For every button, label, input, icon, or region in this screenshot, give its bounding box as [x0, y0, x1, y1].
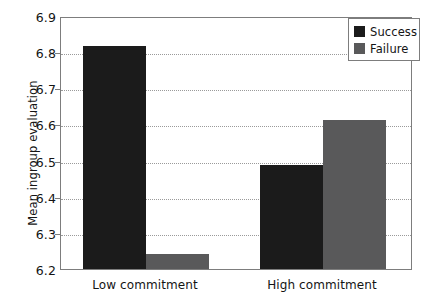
legend-swatch-failure [354, 43, 365, 54]
bar-failure-high [323, 120, 386, 269]
y-tick-label: 6.7 [16, 82, 56, 97]
legend-item-success: Success [354, 23, 415, 40]
legend-label-success: Success [370, 25, 417, 39]
y-tick-label: 6.8 [16, 46, 56, 61]
bar-failure-low [146, 254, 209, 269]
y-tick-label: 6.9 [16, 10, 56, 25]
y-tick-label: 6.4 [16, 190, 56, 205]
bar-success-low [83, 46, 146, 269]
category-label: High commitment [267, 278, 377, 292]
legend-swatch-success [354, 26, 365, 37]
y-tick-label: 6.2 [16, 263, 56, 278]
y-tick-label: 6.5 [16, 154, 56, 169]
category-label: Low commitment [92, 278, 198, 292]
legend-item-failure: Failure [354, 40, 415, 57]
chart-figure: Mean ingroup evaluation 6.26.36.46.56.66… [0, 0, 430, 306]
chart-legend: Success Failure [348, 18, 420, 61]
y-tick-label: 6.3 [16, 226, 56, 241]
legend-label-failure: Failure [370, 42, 409, 56]
y-tick-label: 6.6 [16, 118, 56, 133]
bar-success-high [260, 165, 323, 269]
